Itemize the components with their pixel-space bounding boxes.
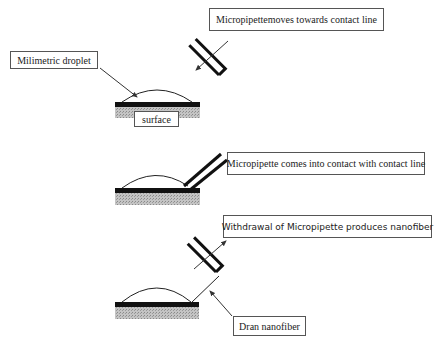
droplet-pointer-arrow [100,68,137,97]
stage-2 [115,154,227,205]
micropipette-1 [189,39,225,75]
surface-label: surface [134,111,179,127]
nanofiber [191,276,219,303]
droplet-3 [122,288,191,302]
droplet-label: Milimetric droplet [10,51,98,69]
caption-stage-1: Micropipettemoves towards contact line [209,8,384,31]
substrate-3 [115,302,199,319]
caption-stage-2: Micropipette comes into contact with con… [227,152,425,175]
micropipette-3 [188,237,223,272]
stage-3 [115,237,232,319]
droplet-2 [122,175,188,188]
caption-stage-3: Withdrawal of Micropipette produces nano… [223,215,432,238]
fiber-pointer-arrow [210,291,232,316]
droplet-1 [122,90,192,102]
micropipette-2 [184,154,227,190]
substrate-2 [115,188,200,205]
nanofiber-label: Dran nanofiber [233,316,306,336]
stage-1 [100,39,228,118]
